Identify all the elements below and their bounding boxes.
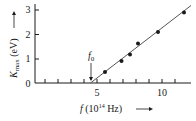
x-axis-title: f (1014 Hz) [80, 103, 122, 115]
y-tick-label-1: 1 [26, 53, 31, 64]
x-axis-arrow-icon [136, 107, 153, 111]
x-tick-label-5: 5 [95, 87, 100, 98]
y-ticks [35, 10, 39, 59]
y-axis-arrow-icon [12, 11, 16, 28]
y-tick-label-0: 0 [26, 78, 31, 89]
photoelectric-chart: 3 2 1 0 5 10 f0 f (1014 Hz) [0, 0, 196, 121]
data-point [103, 70, 107, 74]
data-point [136, 42, 140, 46]
f0-label: f0 [88, 50, 95, 63]
x-ticks [45, 79, 175, 83]
y-tick-label-3: 3 [26, 4, 31, 15]
data-points [103, 11, 186, 75]
down-arrow-icon [89, 77, 93, 81]
f0-annotation: f0 [88, 50, 95, 81]
data-point [182, 11, 186, 15]
data-point [156, 30, 160, 34]
x-tick-label-10: 10 [157, 87, 167, 98]
y-tick-label-2: 2 [26, 29, 31, 40]
svg-text:Kmax (eV): Kmax (eV) [8, 38, 21, 79]
data-point [120, 59, 124, 63]
data-point [128, 53, 132, 57]
y-axis-title: Kmax (eV) [8, 38, 21, 79]
